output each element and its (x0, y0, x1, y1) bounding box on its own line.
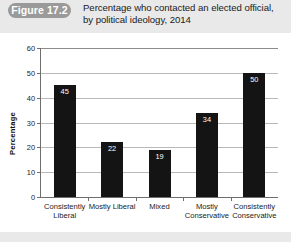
y-axis-tick-mark (37, 48, 41, 49)
bar-value-label: 22 (101, 144, 123, 153)
y-axis-tick-mark (37, 73, 41, 74)
x-axis-category-label: Consistently Conservative (223, 202, 285, 221)
figure-container: Figure 17.2 Percentage who contacted an … (0, 0, 291, 242)
figure-title: Percentage who contacted an elected offi… (83, 2, 286, 27)
bar: 45 (54, 85, 76, 197)
bar-value-label: 34 (196, 115, 218, 124)
bar-value-label: 50 (243, 75, 265, 84)
x-axis-tick-mark (183, 197, 184, 201)
y-axis-tick-mark (37, 172, 41, 173)
x-axis-tick-mark (136, 197, 137, 201)
y-axis-tick-mark (37, 147, 41, 148)
y-axis-label: Percentage (8, 98, 17, 170)
y-axis-tick-label: 10 (27, 168, 35, 177)
bar-value-label: 19 (149, 152, 171, 161)
bar-value-label: 45 (54, 87, 76, 96)
bar: 22 (101, 142, 123, 197)
bar: 50 (243, 73, 265, 197)
y-axis-tick-label: 0 (31, 193, 35, 202)
figure-number-badge: Figure 17.2 (8, 3, 71, 18)
plot-area: 010203040506045Consistently Liberal22Mos… (40, 48, 278, 198)
x-axis-tick-mark (88, 197, 89, 201)
y-axis-tick-label: 20 (27, 143, 35, 152)
y-axis-tick-mark (37, 98, 41, 99)
bar: 19 (149, 150, 171, 197)
y-axis-tick-mark (37, 197, 41, 198)
x-axis-tick-mark (231, 197, 232, 201)
y-axis-tick-label: 60 (27, 44, 35, 53)
plot-wrapper: Percentage 010203040506045Consistently L… (0, 33, 291, 232)
y-axis-tick-mark (37, 123, 41, 124)
y-axis-tick-label: 30 (27, 118, 35, 127)
chart-panel: Percentage 010203040506045Consistently L… (0, 33, 291, 232)
y-axis-tick-label: 50 (27, 68, 35, 77)
gridline (41, 48, 278, 49)
y-axis-tick-label: 40 (27, 93, 35, 102)
bar: 34 (196, 113, 218, 197)
figure-header: Figure 17.2 Percentage who contacted an … (0, 0, 291, 33)
